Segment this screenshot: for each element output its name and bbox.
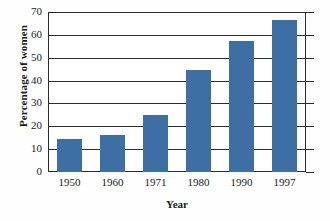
axis-tick-mark bbox=[306, 149, 314, 150]
axis-tick-mark bbox=[306, 35, 314, 36]
x-axis-tick-label: 1960 bbox=[91, 176, 134, 188]
axis-tick-mark bbox=[306, 172, 314, 173]
axis-tick-mark bbox=[306, 81, 314, 82]
y-axis-tick-label: 0 bbox=[8, 165, 42, 177]
y-axis-tick-label: 60 bbox=[8, 28, 42, 40]
bar bbox=[272, 20, 298, 172]
y-axis-tick-label: 10 bbox=[8, 142, 42, 154]
axis-tick-mark bbox=[306, 58, 314, 59]
y-axis-tick-label: 20 bbox=[8, 119, 42, 131]
bar-slot bbox=[57, 12, 83, 172]
x-axis-tick-label: 1980 bbox=[177, 176, 220, 188]
x-axis-title: Year bbox=[48, 198, 306, 210]
y-axis-tick-label: 70 bbox=[8, 5, 42, 17]
bars-group bbox=[48, 12, 306, 172]
y-axis-tick-label: 40 bbox=[8, 74, 42, 86]
bar bbox=[229, 41, 255, 172]
bar bbox=[100, 135, 126, 172]
x-axis-tick-label: 1950 bbox=[48, 176, 91, 188]
y-axis-tick-label: 30 bbox=[8, 96, 42, 108]
x-axis-tick-label: 1971 bbox=[134, 176, 177, 188]
axis-tick-mark bbox=[306, 126, 314, 127]
bar bbox=[57, 139, 83, 172]
bar bbox=[143, 115, 169, 172]
x-axis-tick-label: 1997 bbox=[263, 176, 306, 188]
bar bbox=[186, 70, 212, 172]
bar-chart-figure: Percentage of women 010203040506070 1950… bbox=[0, 0, 330, 221]
bar-slot bbox=[143, 12, 169, 172]
bar-slot bbox=[229, 12, 255, 172]
bar-slot bbox=[100, 12, 126, 172]
bar-slot bbox=[272, 12, 298, 172]
bar-slot bbox=[186, 12, 212, 172]
x-axis-tick-label: 1990 bbox=[220, 176, 263, 188]
y-axis-tick-label: 50 bbox=[8, 51, 42, 63]
axis-tick-mark bbox=[306, 12, 314, 13]
axis-tick-mark bbox=[306, 103, 314, 104]
